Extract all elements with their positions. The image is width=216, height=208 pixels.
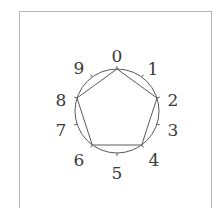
tick-marks	[74, 66, 160, 156]
tick-7	[74, 124, 77, 125]
label-5: 5	[112, 163, 123, 183]
inscribed-pentagon	[77, 69, 157, 145]
tick-3	[157, 124, 160, 125]
label-7: 7	[56, 120, 67, 140]
circle	[75, 69, 159, 153]
label-9: 9	[74, 58, 85, 78]
label-3: 3	[168, 120, 179, 140]
label-0: 0	[112, 46, 123, 66]
tick-1	[142, 75, 144, 77]
label-1: 1	[148, 59, 159, 79]
label-4: 4	[149, 150, 160, 170]
label-8: 8	[56, 90, 67, 110]
label-2: 2	[168, 90, 179, 110]
circle-diagram: 0 1 2 3 4 5 6 7 8 9	[0, 0, 216, 208]
label-6: 6	[74, 150, 85, 170]
tick-9	[91, 75, 93, 77]
